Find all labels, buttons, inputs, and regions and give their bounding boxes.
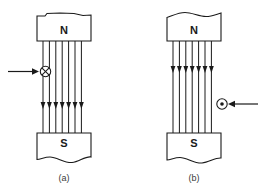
field-arrowhead: [60, 102, 65, 109]
field-arrowhead: [79, 102, 84, 109]
panel-a-south-pole-label: S: [60, 137, 67, 149]
panel-b-force-arrow: [228, 101, 258, 108]
field-arrowhead: [171, 66, 176, 73]
field-arrowhead: [66, 102, 71, 109]
panel-a-caption: (a): [59, 173, 70, 183]
magnetic-field-diagram: N S: [0, 0, 266, 193]
figure-root: N S: [0, 0, 266, 193]
field-arrowhead: [47, 102, 52, 109]
panel-b: N S: [167, 13, 258, 184]
field-arrowhead: [209, 66, 214, 73]
field-arrowhead: [196, 66, 201, 73]
panel-b-field-lines: [173, 41, 211, 133]
panel-b-caption: (b): [189, 173, 200, 183]
field-arrowhead: [183, 66, 188, 73]
field-arrowhead: [41, 102, 46, 109]
field-arrowhead: [73, 102, 78, 109]
panel-b-field-arrowheads: [171, 66, 214, 73]
panel-a-north-pole-label: N: [60, 24, 68, 36]
panel-b-north-pole-label: N: [190, 24, 198, 36]
panel-a-current-into-page-icon: [40, 66, 50, 76]
panel-a-force-arrow: [8, 68, 39, 75]
field-arrowhead: [53, 102, 58, 109]
panel-a: N S: [8, 13, 91, 183]
field-arrowhead: [177, 66, 182, 73]
panel-b-south-pole-label: S: [190, 137, 197, 149]
panel-b-current-out-of-page-icon: [217, 99, 227, 109]
field-arrowhead: [190, 66, 195, 73]
panel-a-field-lines: [43, 41, 81, 133]
panel-a-field-arrowheads: [41, 102, 84, 109]
field-arrowhead: [203, 66, 208, 73]
